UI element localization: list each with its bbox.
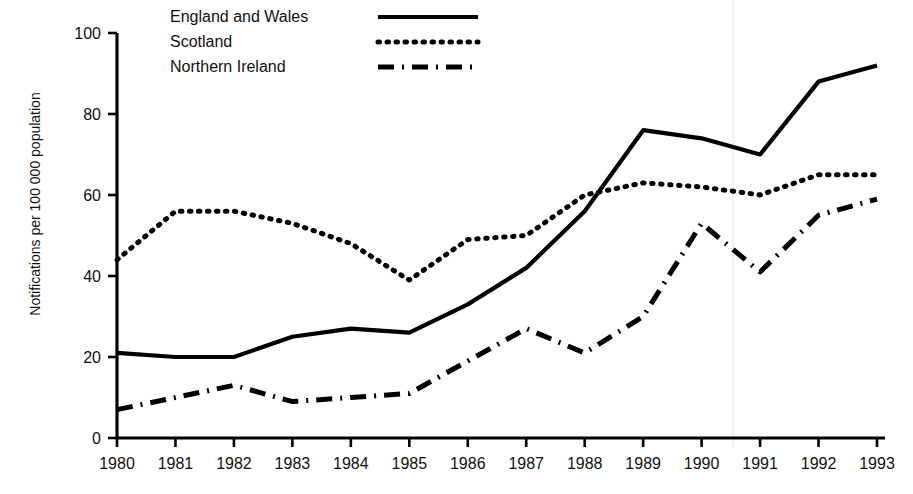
x-tick-label-1980: 1980 <box>99 455 135 472</box>
x-tick-label-1989: 1989 <box>625 455 661 472</box>
series-line-northern-ireland <box>117 199 877 410</box>
series-line-scotland <box>117 175 877 280</box>
x-tick-label-1993: 1993 <box>859 455 895 472</box>
legend-label-1: Scotland <box>170 33 232 50</box>
y-tick-label-60: 60 <box>83 187 101 204</box>
x-tick-label-1982: 1982 <box>216 455 252 472</box>
legend-label-0: England and Wales <box>170 8 308 25</box>
x-tick-label-1988: 1988 <box>567 455 603 472</box>
x-tick-label-1992: 1992 <box>801 455 837 472</box>
y-tick-label-20: 20 <box>83 349 101 366</box>
y-tick-label-40: 40 <box>83 268 101 285</box>
legend-label-2: Northern Ireland <box>170 58 286 75</box>
line-chart-plot: 0204060801001980198119821983198419851986… <box>0 0 913 494</box>
y-tick-label-0: 0 <box>92 430 101 447</box>
chart-figure: Notifications per 100 000 population 020… <box>0 0 913 494</box>
series-line-england-and-wales <box>117 65 877 357</box>
x-tick-label-1991: 1991 <box>742 455 778 472</box>
y-tick-label-100: 100 <box>74 25 101 42</box>
x-tick-label-1986: 1986 <box>450 455 486 472</box>
y-tick-label-80: 80 <box>83 106 101 123</box>
x-tick-label-1984: 1984 <box>333 455 369 472</box>
x-tick-label-1990: 1990 <box>684 455 720 472</box>
x-tick-label-1983: 1983 <box>275 455 311 472</box>
x-tick-label-1987: 1987 <box>508 455 544 472</box>
x-tick-label-1981: 1981 <box>158 455 194 472</box>
x-tick-label-1985: 1985 <box>392 455 428 472</box>
